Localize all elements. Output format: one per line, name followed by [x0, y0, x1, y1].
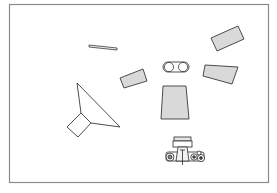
diagram-canvas	[0, 0, 277, 193]
subject-capsule	[163, 62, 189, 72]
background-panel	[161, 86, 189, 119]
lighting-diagram	[0, 0, 277, 193]
